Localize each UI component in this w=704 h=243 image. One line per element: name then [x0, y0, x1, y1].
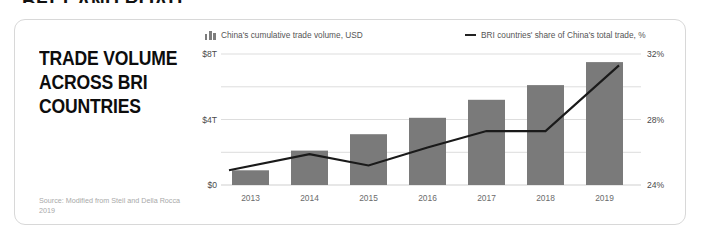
y-axis-left-labels: $8T $4T $0 — [202, 49, 218, 190]
y-right-tick-28pct: 28% — [647, 115, 665, 125]
chart-panel: China's cumulative trade volume, USD BRI… — [191, 26, 679, 222]
chart-legend: China's cumulative trade volume, USD BRI… — [191, 30, 679, 44]
page-top-headline-fragment: BELT AND ROAD — [22, 0, 182, 3]
table-row — [232, 170, 269, 185]
y-left-tick-0: $0 — [207, 180, 217, 190]
table-row — [468, 100, 505, 185]
page-title: TRADE VOLUME ACROSS BRI COUNTRIES — [39, 46, 183, 118]
legend-item-bri-share: BRI countries' share of China's total tr… — [465, 30, 646, 40]
chart-card: TRADE VOLUME ACROSS BRI COUNTRIES Source… — [14, 19, 686, 225]
page-title-line-3: COUNTRIES — [39, 94, 183, 118]
table-row — [350, 134, 387, 185]
legend-label-bri-share: BRI countries' share of China's total tr… — [481, 30, 646, 40]
page-title-line-1: TRADE VOLUME — [39, 46, 183, 70]
y-right-tick-24pct: 24% — [647, 180, 665, 190]
source-note: Source: Modified from Steil and Della Ro… — [39, 196, 189, 216]
table-row — [527, 85, 564, 185]
x-tick-2016: 2016 — [418, 193, 437, 203]
legend-label-trade-volume: China's cumulative trade volume, USD — [221, 30, 363, 40]
bars-group — [232, 62, 623, 185]
table-row — [586, 62, 623, 185]
legend-item-trade-volume: China's cumulative trade volume, USD — [205, 30, 363, 40]
chart-svg: $8T $4T $0 32% 28% 24% — [191, 48, 679, 222]
y-axis-right-labels: 32% 28% 24% — [647, 49, 665, 190]
x-tick-2014: 2014 — [300, 193, 319, 203]
x-axis-labels: 2013 2014 2015 2016 2017 2018 2019 — [241, 193, 614, 203]
y-left-tick-8T: $8T — [202, 49, 218, 59]
x-tick-2019: 2019 — [595, 193, 614, 203]
line-dash-icon — [465, 34, 476, 36]
page-title-line-2: ACROSS BRI — [39, 70, 183, 94]
card-left-panel: TRADE VOLUME ACROSS BRI COUNTRIES Source… — [39, 46, 199, 206]
x-tick-2015: 2015 — [359, 193, 378, 203]
chart-plot-area: $8T $4T $0 32% 28% 24% — [191, 48, 679, 222]
y-left-tick-4T: $4T — [202, 115, 218, 125]
x-tick-2013: 2013 — [241, 193, 260, 203]
bar-chart-icon — [205, 31, 216, 40]
x-tick-2018: 2018 — [536, 193, 555, 203]
x-tick-2017: 2017 — [477, 193, 496, 203]
y-right-tick-32pct: 32% — [647, 49, 665, 59]
